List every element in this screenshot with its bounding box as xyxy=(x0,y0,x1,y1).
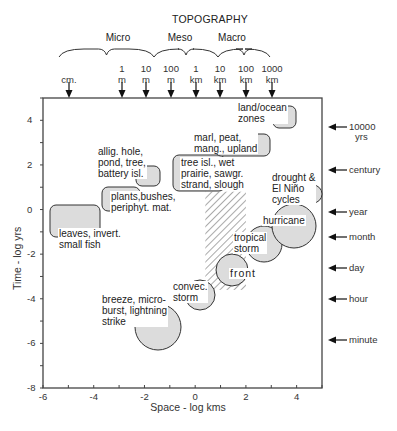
topography-box-label: land/oceanzones xyxy=(237,102,288,124)
topography-box-label: tree isl., wetprairie, sawgr.strand, slo… xyxy=(180,157,245,190)
topography-braces xyxy=(59,49,270,57)
x-tick-label: -4 xyxy=(88,391,100,402)
topography-box-label: plants,bushes,periphyt. mat. xyxy=(110,191,177,213)
time-marker-label: century xyxy=(349,164,380,175)
weather-circle-label: front xyxy=(229,268,257,279)
y-axis-title: Time - log yrs xyxy=(12,227,23,290)
weather-circle-label: tropicalstorm xyxy=(233,232,267,254)
top-scale-unit: cm. xyxy=(54,74,84,85)
range-label-micro: Micro xyxy=(88,32,148,43)
top-scale-value: 1000 xyxy=(257,63,287,74)
x-axis-title: Space - log kms xyxy=(128,402,248,413)
weather-circle-label: convec.storm xyxy=(172,281,208,303)
x-tick-label: -2 xyxy=(138,391,150,402)
time-marker-label: month xyxy=(349,231,375,242)
topography-scale-diagram: TOPOGRAPHY Micro Meso Macro -6-4-2024420… xyxy=(0,0,397,431)
y-tick-label: -4 xyxy=(27,293,35,304)
x-tick-label: -6 xyxy=(37,391,49,402)
y-tick-label: 4 xyxy=(27,114,32,125)
weather-circle-label: drought &El Niñocycles xyxy=(271,172,316,205)
top-scale-unit: km xyxy=(257,74,287,85)
topography-boxes xyxy=(50,106,296,237)
y-tick-label: 0 xyxy=(27,204,32,215)
time-marker-label: year xyxy=(349,206,367,217)
x-tick-label: 2 xyxy=(240,391,252,402)
time-marker-label: hour xyxy=(349,293,368,304)
time-marker-label: minute xyxy=(349,334,378,345)
topography-box-label: allig. hole,pond, tree,battery isl. xyxy=(97,146,147,179)
x-tick-label: 4 xyxy=(291,391,303,402)
time-marker-label: day xyxy=(349,262,364,273)
range-label-meso: Meso xyxy=(150,32,210,43)
topography-box-label: marl, peat,mang., upland xyxy=(193,132,258,154)
y-tick-label: -6 xyxy=(27,337,35,348)
chart-title: TOPOGRAPHY xyxy=(160,14,260,25)
topography-box-label: leaves, invert.small fish xyxy=(58,228,122,250)
weather-circle-label: breeze, micro-burst, lightningstrike xyxy=(101,294,168,327)
range-label-macro: Macro xyxy=(202,32,262,43)
y-tick-label: -8 xyxy=(27,382,35,393)
weather-circle-label: hurricane xyxy=(262,215,306,226)
y-tick-label: 2 xyxy=(27,159,32,170)
time-marker-label: yrs xyxy=(355,131,368,142)
y-tick-label: -2 xyxy=(27,248,35,259)
